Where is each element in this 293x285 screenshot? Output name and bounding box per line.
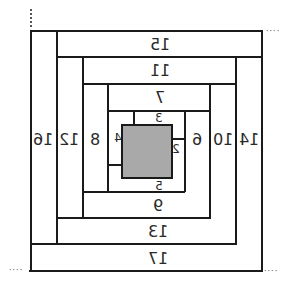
line-2-6 (171, 138, 185, 140)
label-9: 9 (153, 198, 163, 214)
line-9-5 (83, 191, 185, 193)
label-17: 17 (148, 251, 168, 267)
label-13: 13 (148, 224, 168, 240)
label-5: 5 (155, 180, 163, 192)
label-11: 11 (150, 63, 170, 79)
dots-bottom-left: ···· (9, 267, 23, 275)
line-3-2 (133, 111, 135, 125)
line-14-right (235, 57, 237, 244)
line-4-5 (108, 164, 122, 166)
line-6-right (184, 111, 186, 192)
center-square (121, 124, 173, 179)
line-11-7 (83, 83, 236, 85)
line-8-4 (107, 84, 109, 192)
outer-top-line (31, 30, 263, 32)
label-7: 7 (155, 90, 165, 106)
line-13-9 (57, 217, 211, 219)
outer-right-line (261, 31, 263, 272)
label-12: 12 (59, 132, 79, 148)
dots-bottom-right: ···· (264, 268, 278, 276)
outer-bottom-line (29, 270, 261, 272)
dots-top-left (30, 9, 35, 27)
label-6: 6 (192, 132, 202, 148)
line-10-right (209, 84, 211, 218)
line-12-8 (82, 57, 84, 219)
label-3: 3 (155, 112, 163, 124)
label-4: 4 (114, 132, 122, 144)
line-16-12 (56, 31, 58, 244)
label-15: 15 (150, 37, 170, 53)
line-17-13 (30, 243, 237, 245)
label-8: 8 (90, 132, 100, 148)
line-15-11 (57, 56, 262, 58)
label-10: 10 (213, 132, 233, 148)
label-2: 2 (172, 143, 180, 155)
label-14: 14 (239, 132, 259, 148)
dots-top-right: ···· (266, 28, 280, 36)
outer-left-line (30, 30, 32, 271)
label-16: 16 (33, 132, 53, 148)
